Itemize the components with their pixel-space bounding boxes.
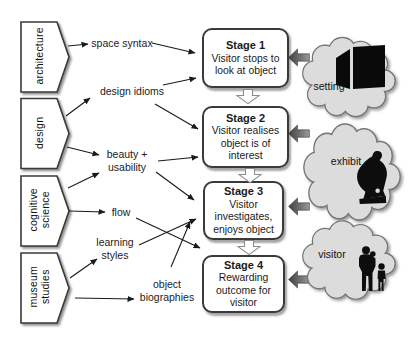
diagram-canvas: architecture design cognitive science mu… — [0, 0, 413, 342]
arrow-space-syntax-to-stage1 — [152, 43, 195, 53]
arrow-design-idioms-to-stage2 — [155, 104, 198, 129]
arrow-cognitive-science-to-beauty-usability — [68, 173, 99, 188]
arrow-design-to-design-idioms — [66, 98, 90, 116]
arrow-architecture-to-space-syntax — [68, 44, 88, 46]
arrow-museum-studies-to-object-biographies — [75, 298, 134, 299]
arrow-beauty-usability-to-stage2 — [158, 157, 198, 161]
arrow-design-idioms-to-stage1 — [163, 78, 196, 85]
arrow-cognitive-science-to-flow — [69, 211, 105, 212]
connector-arrows — [0, 0, 413, 342]
arrow-museum-studies-to-learning-styles — [70, 259, 97, 278]
arrow-flow-to-stage4 — [136, 218, 200, 248]
arrow-beauty-usability-to-stage3 — [156, 172, 194, 200]
arrow-design-to-beauty-usability — [67, 147, 99, 155]
